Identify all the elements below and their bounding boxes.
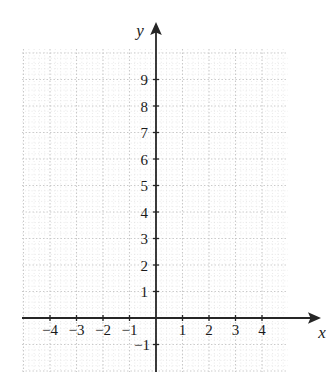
x-tick-label: −3 — [69, 322, 85, 338]
y-tick-label: 8 — [141, 99, 149, 115]
x-tick-label: 4 — [258, 322, 266, 338]
x-tick-label: 1 — [179, 322, 187, 338]
y-tick-label: −1 — [134, 337, 150, 353]
y-tick-label: 1 — [141, 284, 149, 300]
y-tick-label: 3 — [141, 231, 149, 247]
y-tick-label: 9 — [141, 72, 149, 88]
y-tick-label: 7 — [141, 125, 149, 141]
y-tick-label: 2 — [141, 258, 149, 274]
x-tick-label: −2 — [95, 322, 111, 338]
y-tick-label: 5 — [141, 178, 149, 194]
y-tick-label: 4 — [141, 205, 149, 221]
coordinate-plane: −4−3−2−11234 −1123456789 y x — [0, 0, 333, 388]
x-tick-label: −4 — [42, 322, 58, 338]
y-tick-label: 6 — [141, 152, 149, 168]
x-axis-title: x — [317, 323, 326, 342]
x-tick-label: 3 — [232, 322, 240, 338]
x-tick-label: 2 — [205, 322, 213, 338]
y-axis-title: y — [134, 21, 144, 40]
